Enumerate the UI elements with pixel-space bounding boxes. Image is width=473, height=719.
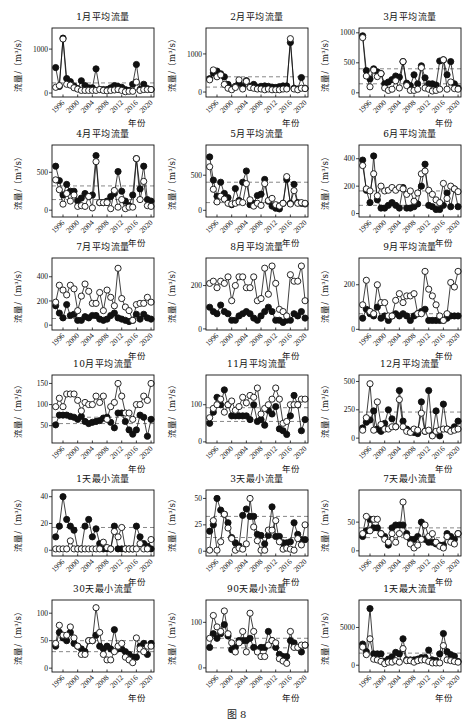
line-chart-plot: 02004001996200020042008201220162020 [0,238,157,362]
filled-circle-marker [207,644,213,650]
x-tick-label: 2000 [64,444,81,461]
y-tick-label: 0 [351,325,355,334]
open-circle-marker [287,36,293,42]
open-circle-marker [444,195,450,201]
x-tick-label: 2000 [218,218,235,235]
y-tick-label: 100 [191,618,203,627]
y-tick-label: 0 [351,661,355,670]
x-tick-label: 2004 [233,444,250,461]
open-circle-marker [89,638,95,644]
filled-circle-marker [367,606,373,612]
open-circle-marker [115,204,121,210]
open-circle-marker [360,427,366,433]
open-circle-marker [374,282,380,288]
line-chart-plot: 01001996200020042008201220162020 [154,355,311,479]
x-tick-label: 2020 [445,444,462,461]
open-circle-marker [221,511,227,517]
open-circle-marker [207,77,213,83]
y-tick-label: 200 [344,182,356,191]
filled-circle-marker [247,416,253,422]
x-tick-label: 2016 [277,98,294,115]
open-circle-marker [207,415,213,421]
open-circle-marker [254,385,260,391]
open-circle-marker [426,427,432,433]
open-circle-marker [221,608,227,614]
x-tick-label: 2004 [79,557,96,574]
filled-circle-marker [389,416,395,422]
open-circle-marker [371,427,377,433]
y-tick-label: 50 [41,421,49,430]
open-circle-marker [363,513,369,519]
line-chart-plot: 02001996200020042008201220162020 [154,238,311,362]
open-circle-marker [448,79,454,85]
x-tick-label: 2000 [64,331,81,348]
y-tick-label: 150 [37,379,49,388]
open-circle-marker [89,401,95,407]
open-circle-marker [444,533,450,539]
open-circle-marker [247,495,253,501]
x-tick-label: 2000 [371,444,388,461]
y-tick-label: 0 [44,89,48,98]
open-circle-marker [455,86,461,92]
filled-circle-marker [111,627,117,633]
filled-circle-marker [265,628,271,634]
x-tick-label: 2008 [247,444,264,461]
open-circle-marker [137,401,143,407]
chart-panel-nov-mean-flow: 11月平均流量 流量/（m³/s） 年份 0100199620002004200… [154,355,311,479]
y-tick-label: 20 [41,519,49,528]
filled-circle-marker [273,403,279,409]
line-chart-plot: 02004001996200020042008201220162020 [307,125,464,249]
filled-circle-marker [240,512,246,518]
x-tick-label: 1996 [203,557,220,574]
x-tick-label: 2008 [93,673,110,690]
x-tick-label: 2008 [400,444,417,461]
open-circle-marker [225,525,231,531]
chart-panel-jan-mean-flow: 1月平均流量 流量/（m³/s） 年份 01000199620002004200… [0,8,157,132]
y-tick-label: 500 [37,168,49,177]
x-tick-label: 1996 [203,673,220,690]
open-circle-marker [422,268,428,274]
open-circle-marker [89,205,95,211]
x-tick-label: 2004 [386,673,403,690]
open-circle-marker [210,278,216,284]
open-circle-marker [93,300,99,306]
filled-circle-marker [53,422,59,428]
open-circle-marker [265,402,271,408]
open-circle-marker [273,280,279,286]
y-tick-label: 100 [37,400,49,409]
open-circle-marker [207,547,213,553]
open-circle-marker [251,394,257,400]
x-tick-label: 1996 [356,331,373,348]
open-circle-marker [210,518,216,524]
open-circle-marker [111,303,117,309]
open-circle-marker [240,628,246,634]
y-tick-label: 500 [191,171,203,180]
open-circle-marker [144,397,150,403]
x-tick-label: 2000 [218,557,235,574]
x-tick-label: 2016 [277,673,294,690]
y-tick-label: 100 [191,400,203,409]
open-circle-marker [455,531,461,537]
x-tick-label: 2020 [138,557,155,574]
filled-circle-marker [418,399,424,405]
open-circle-marker [119,640,125,646]
open-circle-marker [86,193,92,199]
filled-circle-marker [64,516,70,522]
x-tick-label: 2012 [262,331,279,348]
open-circle-marker [396,659,402,665]
open-circle-marker [115,265,121,271]
open-circle-marker [111,649,117,655]
open-circle-marker [367,528,373,534]
open-circle-marker [243,541,249,547]
x-tick-label: 2016 [277,444,294,461]
open-circle-marker [298,542,304,548]
filled-circle-marker [371,153,377,159]
filled-circle-marker [400,636,406,642]
x-tick-label: 2012 [415,218,432,235]
open-circle-marker [75,643,81,649]
open-circle-marker [262,265,268,271]
y-tick-label: 0 [198,437,202,446]
open-circle-marker [378,531,384,537]
open-circle-marker [75,308,81,314]
x-tick-label: 2020 [445,557,462,574]
